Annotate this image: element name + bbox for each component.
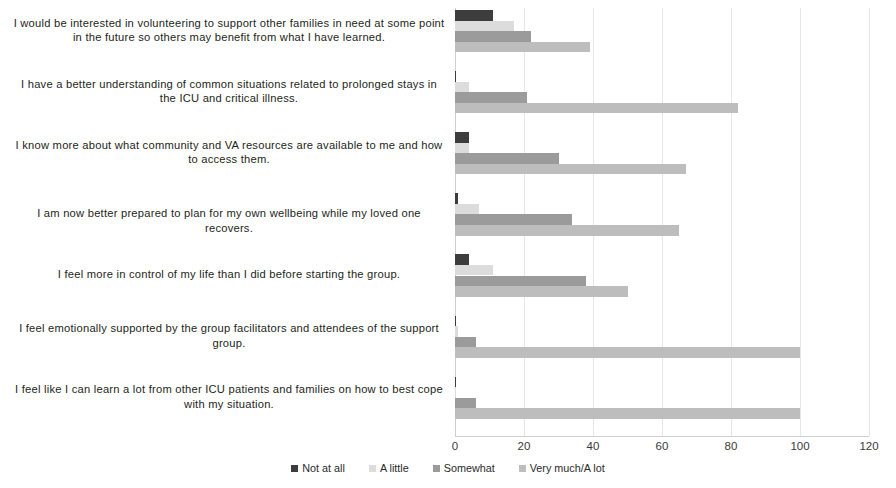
bar-somewhat xyxy=(455,276,586,287)
category-label: I would be interested in volunteering to… xyxy=(13,16,445,45)
category-label: I feel more in control of my life than I… xyxy=(13,267,445,282)
category-row: I feel emotionally supported by the grou… xyxy=(0,314,896,375)
bar-not-at-all xyxy=(455,316,456,327)
bar-a-little xyxy=(455,387,456,398)
x-tick-label: 20 xyxy=(518,440,531,452)
bar-very-much-a-lot xyxy=(455,164,686,175)
bar-group xyxy=(455,69,869,130)
bar-a-little xyxy=(455,21,514,32)
category-row: I know more about what community and VA … xyxy=(0,130,896,191)
bar-very-much-a-lot xyxy=(455,225,679,236)
legend-label: A little xyxy=(380,462,409,474)
legend-swatch-icon xyxy=(291,465,298,472)
chart-legend: Not at allA littleSomewhatVery much/A lo… xyxy=(0,462,896,474)
x-tick-label: 120 xyxy=(859,440,878,452)
legend-item[interactable]: Very much/A lot xyxy=(519,462,605,474)
x-tick-label: 100 xyxy=(790,440,809,452)
bar-very-much-a-lot xyxy=(455,347,800,358)
bar-group xyxy=(455,130,869,191)
category-row: I feel more in control of my life than I… xyxy=(0,252,896,313)
bar-a-little xyxy=(455,143,469,154)
x-tick-label: 0 xyxy=(452,440,458,452)
legend-label: Somewhat xyxy=(444,462,495,474)
bar-group xyxy=(455,375,869,436)
legend-swatch-icon xyxy=(519,465,526,472)
bar-a-little xyxy=(455,326,458,337)
legend-label: Not at all xyxy=(302,462,345,474)
bar-somewhat xyxy=(455,92,527,103)
bar-somewhat xyxy=(455,337,476,348)
bar-somewhat xyxy=(455,398,476,409)
legend-swatch-icon xyxy=(369,465,376,472)
category-row: I have a better understanding of common … xyxy=(0,69,896,130)
legend-swatch-icon xyxy=(433,465,440,472)
category-label: I know more about what community and VA … xyxy=(13,138,445,167)
bar-not-at-all xyxy=(455,132,469,143)
category-label: I have a better understanding of common … xyxy=(13,77,445,106)
bar-very-much-a-lot xyxy=(455,42,590,53)
bar-somewhat xyxy=(455,153,559,164)
bar-group xyxy=(455,8,869,69)
bar-not-at-all xyxy=(455,10,493,21)
category-label: I am now better prepared to plan for my … xyxy=(13,206,445,235)
legend-label: Very much/A lot xyxy=(530,462,605,474)
category-row: I feel like I can learn a lot from other… xyxy=(0,375,896,436)
bar-a-little xyxy=(455,82,469,93)
bar-group xyxy=(455,252,869,313)
legend-item[interactable]: Not at all xyxy=(291,462,345,474)
x-tick-label: 40 xyxy=(587,440,600,452)
bar-very-much-a-lot xyxy=(455,286,628,297)
axis-baseline xyxy=(455,436,869,437)
bar-not-at-all xyxy=(455,377,456,388)
bar-not-at-all xyxy=(455,254,469,265)
x-tick-label: 80 xyxy=(725,440,738,452)
bar-somewhat xyxy=(455,214,572,225)
bar-not-at-all xyxy=(455,71,456,82)
category-row: I am now better prepared to plan for my … xyxy=(0,191,896,252)
bar-very-much-a-lot xyxy=(455,103,738,114)
legend-item[interactable]: Somewhat xyxy=(433,462,495,474)
legend-item[interactable]: A little xyxy=(369,462,409,474)
bar-a-little xyxy=(455,204,479,215)
bar-a-little xyxy=(455,265,493,276)
x-tick-label: 60 xyxy=(656,440,669,452)
x-axis-tick-labels: 020406080100120 xyxy=(455,440,869,458)
horizontal-bar-chart: I would be interested in volunteering to… xyxy=(0,0,896,488)
bar-group xyxy=(455,314,869,375)
bar-very-much-a-lot xyxy=(455,408,800,419)
category-label: I feel like I can learn a lot from other… xyxy=(13,382,445,411)
bar-group xyxy=(455,191,869,252)
bar-not-at-all xyxy=(455,193,458,204)
category-label: I feel emotionally supported by the grou… xyxy=(13,321,445,350)
category-row: I would be interested in volunteering to… xyxy=(0,8,896,69)
bar-somewhat xyxy=(455,31,531,42)
